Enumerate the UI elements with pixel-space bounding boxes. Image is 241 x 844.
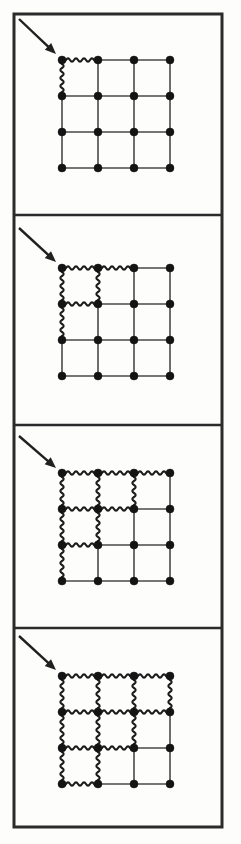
bond-horizontal-wavy: [134, 471, 170, 474]
lattice-node: [130, 128, 138, 136]
bond-vertical-wavy: [60, 676, 63, 712]
panel-step-2: [19, 228, 174, 380]
lattice-node: [94, 469, 102, 477]
lattice-node: [130, 744, 138, 752]
bond-vertical-wavy: [60, 60, 63, 96]
lattice-node: [94, 264, 102, 272]
lattice-node: [58, 372, 66, 380]
bond-horizontal-wavy: [62, 746, 98, 749]
lattice-node: [166, 372, 174, 380]
bond-horizontal-wavy: [62, 302, 98, 305]
lattice-node: [130, 505, 138, 513]
lattice-node: [166, 541, 174, 549]
lattice-node: [58, 300, 66, 308]
lattice-bonds: [60, 471, 170, 581]
bond-vertical-wavy: [60, 268, 63, 304]
lattice-node: [166, 92, 174, 100]
lattice-node: [130, 372, 138, 380]
lattice-node: [58, 505, 66, 513]
lattice-bonds: [60, 266, 170, 376]
bond-vertical-wavy: [96, 268, 99, 304]
lattice-node: [94, 128, 102, 136]
lattice-node: [130, 469, 138, 477]
bond-horizontal-wavy: [62, 782, 98, 785]
bond-vertical-wavy: [60, 304, 63, 340]
lattice-node: [58, 264, 66, 272]
lattice-nodes: [58, 469, 174, 585]
bond-horizontal-wavy: [134, 710, 170, 713]
propagation-direction-arrow: [19, 19, 56, 54]
lattice-node: [94, 372, 102, 380]
lattice-node: [94, 541, 102, 549]
bond-horizontal-wavy: [62, 507, 98, 510]
lattice-node: [130, 780, 138, 788]
lattice-node: [166, 672, 174, 680]
lattice-node: [58, 708, 66, 716]
panel-group: [19, 19, 174, 788]
bond-horizontal-wavy: [62, 674, 98, 677]
bond-vertical-wavy: [132, 473, 135, 509]
lattice-node: [130, 264, 138, 272]
panel-step-4: [19, 636, 174, 788]
lattice-node: [94, 300, 102, 308]
bond-vertical-wavy: [132, 676, 135, 712]
propagation-direction-arrow: [19, 436, 56, 468]
lattice-nodes: [58, 672, 174, 788]
lattice-node: [166, 469, 174, 477]
lattice-node: [58, 744, 66, 752]
lattice-node: [94, 577, 102, 585]
lattice-node: [166, 300, 174, 308]
outer-frame-border: [14, 14, 222, 827]
lattice-node: [58, 577, 66, 585]
bond-vertical-wavy: [132, 712, 135, 748]
bond-vertical-wavy: [60, 712, 63, 748]
bond-horizontal-wavy: [98, 746, 134, 749]
bond-horizontal-wavy: [62, 471, 98, 474]
arrow-shaft: [19, 636, 49, 664]
bond-vertical-wavy: [96, 748, 99, 784]
lattice-node: [58, 541, 66, 549]
lattice-node: [130, 672, 138, 680]
lattice-nodes: [58, 56, 174, 172]
lattice-node: [94, 164, 102, 172]
lattice-node: [58, 164, 66, 172]
lattice-node: [130, 541, 138, 549]
arrow-shaft: [19, 228, 49, 256]
lattice-propagation-figure: [0, 0, 241, 844]
lattice-node: [58, 672, 66, 680]
lattice-node: [166, 780, 174, 788]
lattice-node: [130, 56, 138, 64]
lattice-node: [130, 164, 138, 172]
lattice-node: [166, 505, 174, 513]
lattice-node: [94, 708, 102, 716]
lattice-node: [58, 469, 66, 477]
bond-vertical-wavy: [60, 509, 63, 545]
lattice-node: [94, 336, 102, 344]
lattice-node: [58, 336, 66, 344]
bond-horizontal-wavy: [98, 507, 134, 510]
lattice-node: [166, 577, 174, 585]
bond-horizontal-wavy: [98, 710, 134, 713]
lattice-node: [94, 92, 102, 100]
lattice-node: [166, 264, 174, 272]
lattice-node: [166, 128, 174, 136]
lattice-node: [166, 336, 174, 344]
bond-vertical-wavy: [96, 473, 99, 509]
propagation-direction-arrow: [19, 228, 56, 262]
lattice-node: [58, 56, 66, 64]
bond-horizontal-wavy: [98, 471, 134, 474]
lattice-node: [130, 577, 138, 585]
lattice-node: [166, 708, 174, 716]
arrow-shaft: [19, 19, 49, 48]
bond-horizontal-wavy: [62, 710, 98, 713]
bond-vertical-wavy: [96, 712, 99, 748]
outer-frame-group: [14, 14, 222, 827]
lattice-node: [130, 300, 138, 308]
lattice-node: [94, 744, 102, 752]
lattice-node: [94, 780, 102, 788]
bond-vertical-wavy: [60, 748, 63, 784]
panel-step-3: [19, 436, 174, 585]
lattice-node: [130, 708, 138, 716]
lattice-node: [166, 164, 174, 172]
lattice-node: [58, 92, 66, 100]
